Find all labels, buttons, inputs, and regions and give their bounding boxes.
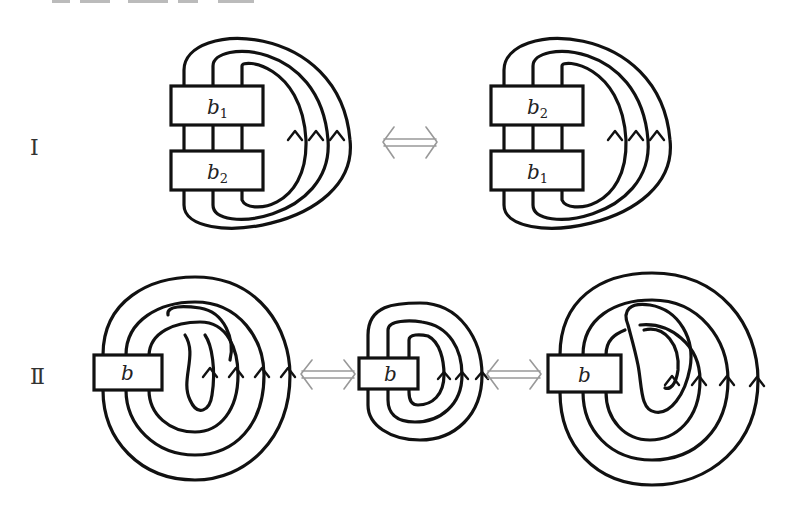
box-label: b xyxy=(121,361,134,385)
box-label: b xyxy=(384,362,397,386)
equivalence-arrow-icon xyxy=(383,127,437,158)
diagram-II-right: b xyxy=(548,273,764,485)
orientation-arrow-icon xyxy=(203,368,295,377)
diagram-II-left: b xyxy=(94,277,295,480)
equivalence-arrow-icon xyxy=(301,360,355,389)
row-label-I: Ⅰ xyxy=(30,135,39,160)
box-label: b xyxy=(578,363,591,387)
top-caption-fragment xyxy=(52,0,254,3)
equivalence-arrow-icon xyxy=(487,360,541,389)
diagram-I-right: b2 b1 xyxy=(491,38,670,228)
braid-closure-figure: Ⅰ b1 b2 b2 b1 xyxy=(0,0,785,517)
diagram-II-middle: b xyxy=(359,303,488,440)
orientation-arrow-icon xyxy=(608,131,664,140)
orientation-arrow-icon xyxy=(288,131,344,140)
orientation-arrow-icon xyxy=(665,376,764,386)
diagram-I-left: b1 b2 xyxy=(171,38,350,228)
row-label-II: Ⅱ xyxy=(30,364,45,389)
